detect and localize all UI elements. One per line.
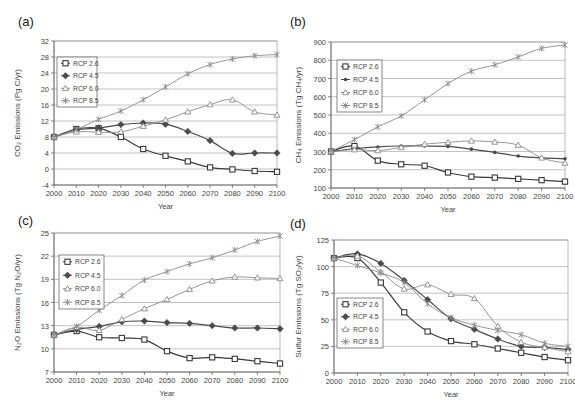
- marker-dot-icon: [493, 151, 497, 155]
- y-tick-label: 25: [321, 342, 329, 351]
- x-tick-label: 2060: [179, 189, 196, 198]
- x-axis-label: Year: [440, 205, 456, 214]
- marker-square-icon: [97, 335, 102, 340]
- legend-entry: RCP 2.6: [353, 301, 379, 308]
- y-tick-label: 125: [316, 236, 329, 245]
- marker-square-icon: [187, 356, 192, 361]
- chart-panel-d: 0255075100125200020102020203020402050206…: [294, 236, 575, 399]
- y-axis-label: CH₄ Emissions (Tg CH₄/yr): [294, 67, 303, 164]
- x-tick-label: 2030: [396, 377, 413, 386]
- x-tick-label: 2000: [46, 189, 63, 198]
- y-tick-label: 16: [41, 101, 49, 110]
- x-tick-label: 2040: [136, 376, 153, 385]
- x-tick-label: 2040: [416, 192, 433, 201]
- marker-square-icon: [562, 179, 567, 184]
- y-tick-label: 900: [313, 38, 326, 47]
- x-tick-label: 2070: [489, 377, 506, 386]
- y-tick-label: 700: [313, 75, 326, 84]
- series-line-rcp26: [54, 127, 277, 171]
- marker-star-icon: [422, 97, 427, 103]
- legend-entry: RCP 2.6: [353, 63, 379, 70]
- legend-entry: RCP 2.6: [75, 258, 101, 265]
- marker-square-icon: [448, 338, 453, 343]
- legend-entry: RCP 8.5: [73, 97, 99, 104]
- x-tick-label: 2030: [113, 376, 130, 385]
- marker-square-icon: [163, 153, 168, 158]
- y-tick-label: 19: [41, 275, 49, 284]
- marker-star-icon: [445, 81, 450, 87]
- marker-diamond-icon: [207, 137, 213, 143]
- y-tick-label: 25: [41, 229, 49, 238]
- marker-star-icon: [118, 108, 123, 114]
- marker-star-icon: [163, 84, 168, 90]
- x-tick-label: 2090: [246, 189, 263, 198]
- marker-square-icon: [230, 167, 235, 172]
- x-tick-label: 2000: [46, 376, 63, 385]
- chart-panel-c: 7101316192225200020102020203020402050206…: [13, 229, 288, 398]
- y-tick-label: 50: [321, 316, 329, 325]
- legend: RCP 2.6RCP 4.5RCP 6.0RCP 8.5: [337, 298, 383, 348]
- x-tick-label: 2090: [536, 377, 553, 386]
- marker-square-icon: [425, 329, 430, 334]
- marker-star-icon: [375, 124, 380, 130]
- marker-square-icon: [118, 134, 123, 139]
- marker-star-icon: [469, 68, 474, 74]
- marker-square-icon: [422, 163, 427, 168]
- marker-square-icon: [378, 280, 383, 285]
- x-tick-label: 2040: [135, 189, 152, 198]
- marker-diamond-icon: [378, 260, 384, 266]
- x-tick-label: 2020: [372, 377, 389, 386]
- x-axis-label: Year: [159, 389, 175, 398]
- marker-square-icon: [492, 175, 497, 180]
- marker-star-icon: [232, 247, 237, 253]
- x-tick-label: 2050: [159, 376, 176, 385]
- y-tick-label: 0: [45, 165, 49, 174]
- legend: RCP 2.6RCP 4.5RCP 6.0RCP 8.5: [57, 57, 99, 107]
- marker-square-icon: [445, 170, 450, 175]
- marker-star-icon: [185, 71, 190, 77]
- marker-star-icon: [425, 301, 430, 307]
- marker-square-icon: [185, 159, 190, 164]
- marker-square-icon: [539, 178, 544, 183]
- legend: RCP 2.6RCP 4.5RCP 6.0RCP 8.5: [59, 255, 104, 309]
- legend-entry: RCP 6.0: [73, 85, 99, 92]
- marker-square-icon: [343, 64, 348, 69]
- x-tick-label: 2080: [224, 189, 241, 198]
- x-tick-label: 2070: [204, 376, 221, 385]
- chart-panel-b: 1002003004005006007008009002000201020202…: [294, 38, 573, 214]
- x-tick-label: 2030: [393, 192, 410, 201]
- y-tick-label: 75: [321, 289, 329, 298]
- legend-entry: RCP 4.5: [73, 72, 99, 79]
- legend-entry: RCP 6.0: [75, 285, 101, 292]
- x-tick-label: 2010: [68, 189, 85, 198]
- x-tick-label: 2080: [226, 376, 243, 385]
- x-tick-label: 2090: [533, 192, 550, 201]
- y-tick-label: 13: [41, 322, 49, 331]
- marker-dot-icon: [516, 154, 520, 158]
- y-tick-label: 28: [41, 53, 49, 62]
- marker-triangle-icon: [471, 296, 477, 301]
- legend-entry: RCP 6.0: [353, 326, 379, 333]
- x-tick-label: 2030: [113, 189, 130, 198]
- marker-square-icon: [399, 162, 404, 167]
- marker-square-icon: [516, 176, 521, 181]
- x-tick-label: 2020: [369, 192, 386, 201]
- y-tick-label: 24: [41, 69, 49, 78]
- x-tick-label: 2020: [91, 376, 108, 385]
- marker-square-icon: [119, 335, 124, 340]
- legend: RCP 2.6RCP 4.5RCP 6.0RCP 8.5: [337, 60, 382, 112]
- marker-star-icon: [399, 113, 404, 119]
- marker-dot-icon: [470, 147, 474, 151]
- y-tick-label: 600: [313, 93, 326, 102]
- y-tick-label: 500: [313, 111, 326, 120]
- x-tick-label: 2000: [323, 192, 340, 201]
- marker-diamond-icon: [141, 318, 147, 324]
- marker-square-icon: [164, 349, 169, 354]
- y-tick-label: 12: [41, 117, 49, 126]
- y-tick-label: 10: [41, 345, 49, 354]
- y-tick-label: 22: [41, 252, 49, 261]
- marker-star-icon: [142, 277, 147, 283]
- y-tick-label: 4: [45, 149, 49, 158]
- x-tick-label: 2010: [68, 376, 85, 385]
- legend-entry: RCP 8.5: [353, 338, 379, 345]
